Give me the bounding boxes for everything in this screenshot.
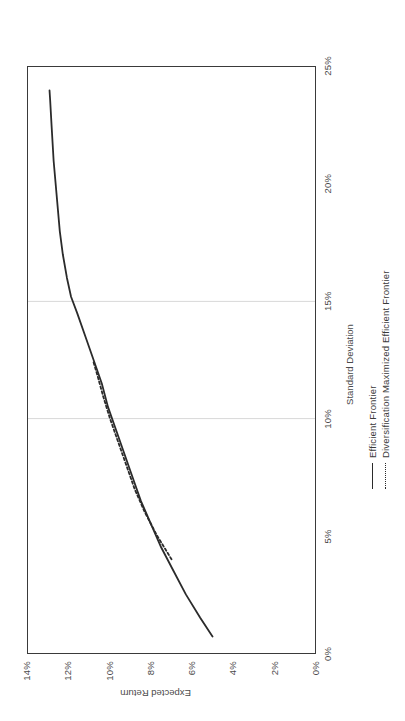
y-tick-label: 2%: [269, 661, 280, 713]
series-lines: [50, 90, 213, 636]
x-tick-label: 20%: [322, 154, 333, 214]
x-tick-label: 5%: [322, 506, 333, 566]
x-axis-title: Standard Deviation: [344, 0, 355, 721]
x-tick-label: 10%: [322, 389, 333, 449]
legend-item: Diversification Maximized Efficient Fron…: [379, 270, 392, 489]
x-axis-title-text: Standard Deviation: [344, 324, 355, 405]
x-tick-label: 0%: [322, 624, 333, 684]
legend-swatch-dashed: [385, 463, 386, 489]
efficient-frontier-chart: 0%5%10%15%20%25% Standard Deviation 0%2%…: [0, 0, 405, 721]
x-tick-label: 15%: [322, 271, 333, 331]
gridlines: [28, 301, 315, 418]
y-tick-label: 12%: [62, 661, 73, 713]
y-tick-label: 14%: [21, 661, 32, 713]
x-tick-label: 25%: [322, 36, 333, 96]
legend-swatch-solid: [372, 463, 374, 489]
y-axis-title: Expected Return: [76, 688, 236, 699]
plot-svg: [28, 67, 315, 653]
y-tick-label: 0%: [310, 661, 321, 713]
legend-label: Diversification Maximized Efficient Fron…: [379, 270, 392, 458]
series-line-2: [94, 362, 172, 559]
chart-legend: Efficient FrontierDiversification Maximi…: [366, 270, 392, 489]
rotated-figure-container: 0%5%10%15%20%25% Standard Deviation 0%2%…: [0, 0, 405, 721]
plot-area: [27, 66, 316, 654]
series-line-1: [50, 90, 213, 636]
legend-label: Efficient Frontier: [366, 385, 379, 458]
legend-item: Efficient Frontier: [366, 270, 379, 489]
